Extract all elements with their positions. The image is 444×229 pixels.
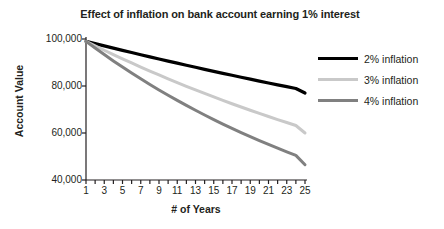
legend-line-swatch <box>318 99 358 102</box>
series-line <box>86 41 305 93</box>
legend-line-swatch <box>318 57 358 60</box>
legend-item[interactable]: 2% inflation <box>318 48 418 69</box>
series-line <box>86 41 305 164</box>
data-series-group <box>86 41 305 164</box>
chart-container: Effect of inflation on bank account earn… <box>0 0 444 229</box>
series-line <box>86 41 305 133</box>
plot-area <box>0 0 444 229</box>
legend-label: 3% inflation <box>364 74 418 86</box>
legend: 2% inflation3% inflation4% inflation <box>318 48 418 111</box>
legend-line-swatch <box>318 78 358 81</box>
legend-item[interactable]: 4% inflation <box>318 90 418 111</box>
legend-label: 2% inflation <box>364 53 418 65</box>
legend-label: 4% inflation <box>364 95 418 107</box>
legend-item[interactable]: 3% inflation <box>318 69 418 90</box>
